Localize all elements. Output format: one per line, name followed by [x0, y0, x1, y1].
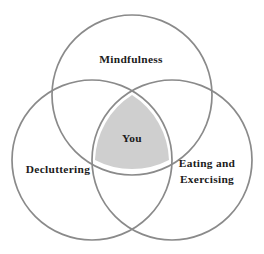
label-decluttering: Decluttering	[26, 163, 90, 175]
label-eating-and-exercising-line-1: Eating and	[179, 157, 236, 169]
label-you: You	[122, 132, 142, 144]
venn-diagram-canvas: Mindfulness Decluttering Eating and Exer…	[0, 0, 264, 254]
venn-diagram-figure: Mindfulness Decluttering Eating and Exer…	[0, 0, 264, 254]
label-mindfulness: Mindfulness	[99, 53, 163, 65]
label-eating-and-exercising-line-2: Exercising	[180, 173, 234, 185]
